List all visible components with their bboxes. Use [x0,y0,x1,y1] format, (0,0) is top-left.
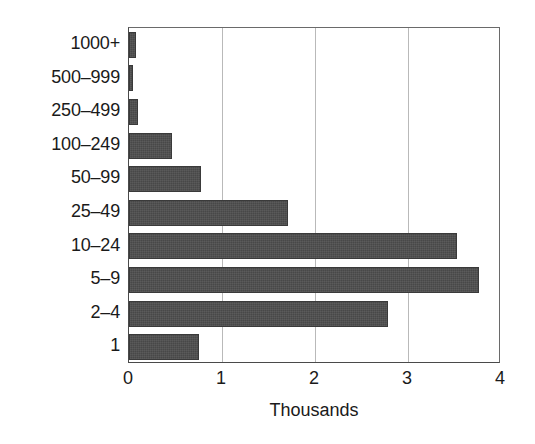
bar-band [129,95,138,129]
bar-2-4 [129,301,388,327]
bar-band [129,196,288,230]
bar-chart: 1000+ 500–999 250–499 100–249 50–99 25–4… [0,0,535,444]
x-axis-tick-label: 1 [201,368,241,389]
bar-5-9 [129,267,479,293]
y-axis-tick-label: 50–99 [0,161,120,195]
bar-band [129,162,201,196]
y-axis-tick-label: 1 [0,329,120,363]
bar-band [129,28,136,62]
x-axis-tick-label: 3 [387,368,427,389]
y-axis-tick-label: 250–499 [0,94,120,128]
plot-area [128,27,500,363]
bar-band [129,129,172,163]
y-axis-labels: 1000+ 500–999 250–499 100–249 50–99 25–4… [0,27,120,363]
y-axis-tick-label: 500–999 [0,61,120,95]
bar-50-99 [129,166,201,192]
bar-250-499 [129,99,138,125]
y-axis-tick-label: 1000+ [0,27,120,61]
bar-band [129,297,388,331]
y-axis-tick-label: 10–24 [0,229,120,263]
bars-layer [129,28,499,362]
bar-band [129,330,199,364]
bar-1000-plus [129,32,136,58]
y-axis-tick-label: 100–249 [0,128,120,162]
y-axis-tick-label: 25–49 [0,195,120,229]
x-axis-title: Thousands [128,400,500,421]
bar-500-999 [129,65,133,91]
bar-25-49 [129,200,288,226]
bar-10-24 [129,233,457,259]
y-axis-tick-label: 5–9 [0,262,120,296]
x-axis-labels: 0 1 2 3 4 [0,368,535,396]
bar-100-249 [129,133,172,159]
bar-band [129,263,479,297]
bar-band [129,230,457,264]
y-axis-tick-label: 2–4 [0,296,120,330]
bar-1 [129,334,199,360]
x-axis-tick-label: 2 [294,368,334,389]
x-axis-tick-label: 0 [108,368,148,389]
bar-band [129,62,133,96]
x-axis-tick-label: 4 [480,368,520,389]
